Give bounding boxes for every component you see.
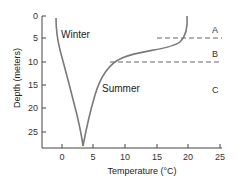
y-tick-5: 5: [33, 33, 38, 43]
x-tick-5: 5: [90, 152, 95, 162]
summer-curve: [83, 16, 187, 146]
x-tick-10: 10: [120, 152, 130, 162]
y-tick-10: 10: [28, 57, 38, 67]
y-tick-labels: 0 5 10 15 20 25: [28, 11, 38, 137]
zone-c-label: C: [212, 85, 219, 95]
y-tick-25: 25: [28, 127, 38, 137]
x-tick-15: 15: [152, 152, 162, 162]
y-axis-title: Depth (meters): [12, 48, 22, 108]
zone-b-label: B: [212, 49, 218, 59]
depth-temperature-chart: 0 5 10 15 20 25 0 5 10 15 20 25 Temperat…: [0, 0, 238, 184]
y-tick-0: 0: [33, 11, 38, 21]
summer-label: Summer: [102, 83, 140, 94]
x-tick-25: 25: [215, 152, 225, 162]
reference-lines: [110, 38, 222, 62]
zone-a-label: A: [212, 25, 218, 35]
winter-label: Winter: [61, 29, 91, 40]
x-tick-labels: 0 5 10 15 20 25: [59, 152, 225, 162]
y-tick-20: 20: [28, 103, 38, 113]
x-axis-title: Temperature (°C): [107, 166, 176, 176]
y-tick-15: 15: [28, 80, 38, 90]
x-tick-0: 0: [59, 152, 64, 162]
x-tick-20: 20: [183, 152, 193, 162]
